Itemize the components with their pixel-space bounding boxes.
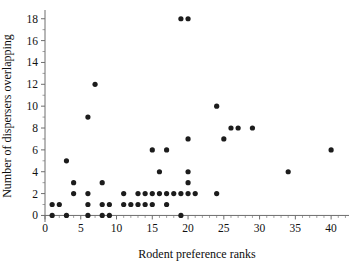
data-point: [185, 191, 190, 196]
data-point: [250, 125, 255, 130]
data-point: [214, 191, 219, 196]
data-point: [157, 169, 162, 174]
x-tick-label: 40: [325, 222, 337, 234]
x-tick-label: 25: [218, 222, 230, 234]
data-point: [236, 125, 241, 130]
data-point: [171, 191, 176, 196]
data-point: [178, 16, 183, 21]
scatter-plot: 024681012141618 0510152025303540 Rodent …: [0, 0, 357, 269]
y-tick-label: 16: [27, 35, 39, 47]
data-point: [164, 202, 169, 207]
data-point: [185, 180, 190, 185]
data-point: [150, 147, 155, 152]
data-point: [185, 169, 190, 174]
x-tick-label: 5: [78, 222, 84, 234]
data-point: [107, 213, 112, 218]
data-point: [100, 180, 105, 185]
y-tick-label: 18: [27, 13, 39, 25]
data-point: [221, 136, 226, 141]
y-tick-label: 14: [27, 56, 39, 68]
y-tick-label: 4: [32, 166, 38, 178]
data-point: [121, 202, 126, 207]
data-point: [157, 191, 162, 196]
x-tick-label: 0: [42, 222, 48, 234]
data-point: [85, 202, 90, 207]
data-point: [92, 82, 97, 87]
data-point: [214, 104, 219, 109]
data-point: [329, 147, 334, 152]
y-tick-label: 0: [32, 209, 38, 221]
data-points: [50, 16, 334, 218]
data-point: [71, 191, 76, 196]
data-point: [164, 147, 169, 152]
x-tick-label: 30: [254, 222, 266, 234]
chart-canvas: 024681012141618 0510152025303540 Rodent …: [0, 0, 357, 269]
data-point: [64, 213, 69, 218]
x-axis-ticks: 0510152025303540: [42, 215, 345, 234]
x-tick-label: 20: [182, 222, 194, 234]
data-point: [164, 191, 169, 196]
data-point: [50, 213, 55, 218]
data-point: [71, 180, 76, 185]
data-point: [85, 114, 90, 119]
data-point: [178, 191, 183, 196]
data-point: [286, 169, 291, 174]
data-point: [185, 16, 190, 21]
y-axis-ticks: 024681012141618: [27, 13, 46, 222]
data-point: [57, 202, 62, 207]
data-point: [85, 191, 90, 196]
data-point: [64, 158, 69, 163]
data-point: [178, 213, 183, 218]
y-tick-label: 10: [27, 100, 39, 112]
data-point: [143, 191, 148, 196]
data-point: [128, 202, 133, 207]
y-axis-title: Number of dispersers overlapping: [0, 34, 14, 198]
data-point: [150, 191, 155, 196]
data-point: [150, 202, 155, 207]
data-point: [100, 213, 105, 218]
data-point: [193, 191, 198, 196]
x-axis-title: Rodent preference ranks: [138, 247, 256, 261]
data-point: [121, 191, 126, 196]
data-point: [135, 202, 140, 207]
data-point: [228, 125, 233, 130]
x-tick-label: 10: [111, 222, 123, 234]
y-tick-label: 2: [32, 188, 38, 200]
data-point: [135, 191, 140, 196]
data-point: [107, 202, 112, 207]
y-tick-label: 12: [27, 78, 39, 90]
data-point: [85, 213, 90, 218]
y-tick-label: 8: [32, 122, 38, 134]
data-point: [185, 136, 190, 141]
data-point: [100, 202, 105, 207]
data-point: [50, 202, 55, 207]
x-tick-label: 15: [147, 222, 159, 234]
y-tick-label: 6: [32, 144, 38, 156]
axis-lines: [45, 10, 349, 222]
x-tick-label: 35: [290, 222, 302, 234]
data-point: [143, 202, 148, 207]
